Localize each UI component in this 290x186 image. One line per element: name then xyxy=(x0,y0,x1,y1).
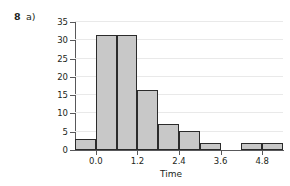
x-axis-title-text: Time xyxy=(160,169,182,179)
y-axis-tick-label: 5 xyxy=(50,128,68,137)
y-axis-tick-label: 20 xyxy=(50,73,68,82)
x-axis-title: Time xyxy=(0,169,290,179)
histogram-figure: 8 a) 05101520253035 0.01.22.43.64.8 Perc… xyxy=(0,0,290,186)
histogram-bar xyxy=(241,143,262,150)
histogram-bar xyxy=(179,131,200,150)
histogram-bar xyxy=(200,143,221,150)
y-axis-tick-label: 25 xyxy=(50,55,68,64)
histogram-bar xyxy=(137,90,158,150)
histogram-bar xyxy=(96,35,117,150)
plot-area xyxy=(75,22,283,150)
question-number: 8 xyxy=(14,12,21,22)
histogram-bar xyxy=(117,35,138,150)
x-axis-tick-label: 3.6 xyxy=(210,157,232,166)
y-axis-tick-label: 10 xyxy=(50,109,68,118)
x-axis-tick-label: 4.8 xyxy=(251,157,273,166)
x-axis-tick xyxy=(179,151,180,155)
x-axis-tick xyxy=(262,151,263,155)
histogram-bar xyxy=(262,143,283,150)
x-axis-tick xyxy=(96,151,97,155)
x-axis-tick-label: 1.2 xyxy=(126,157,148,166)
x-axis-tick xyxy=(221,151,222,155)
y-axis-tick-label: 0 xyxy=(50,146,68,155)
y-axis-tick-label: 30 xyxy=(50,36,68,45)
y-axis-tick-label: 15 xyxy=(50,91,68,100)
x-axis-tick-label: 2.4 xyxy=(168,157,190,166)
y-axis-tick-label: 35 xyxy=(50,18,68,27)
y-axis-tick-labels: 05101520253035 xyxy=(48,0,68,186)
x-axis-tick-label: 0.0 xyxy=(85,157,107,166)
histogram-bar xyxy=(75,139,96,150)
histogram-bar xyxy=(158,124,179,150)
question-part-label: a) xyxy=(26,12,36,22)
x-axis-tick xyxy=(137,151,138,155)
gridline xyxy=(75,21,283,22)
